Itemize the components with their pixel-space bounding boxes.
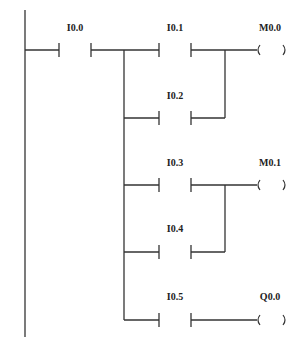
contact-i00: [25, 43, 124, 57]
coil-m01: [258, 180, 285, 190]
label-i05: I0.5: [167, 291, 183, 302]
label-i00: I0.0: [67, 22, 83, 33]
contact-i04: [124, 185, 225, 259]
contact-i03: [124, 178, 257, 192]
label-i01: I0.1: [167, 22, 183, 33]
label-i04: I0.4: [167, 223, 183, 234]
label-m00: M0.0: [259, 22, 281, 33]
contact-i05: [124, 313, 257, 327]
label-q00: Q0.0: [260, 291, 280, 302]
label-m01: M0.1: [259, 157, 281, 168]
contact-i02: [124, 50, 225, 125]
ladder-diagram: [0, 0, 303, 354]
label-i02: I0.2: [167, 90, 183, 101]
contact-i01: [124, 43, 257, 57]
coil-m00: [258, 45, 285, 55]
label-i03: I0.3: [167, 157, 183, 168]
coil-q00: [258, 315, 285, 325]
